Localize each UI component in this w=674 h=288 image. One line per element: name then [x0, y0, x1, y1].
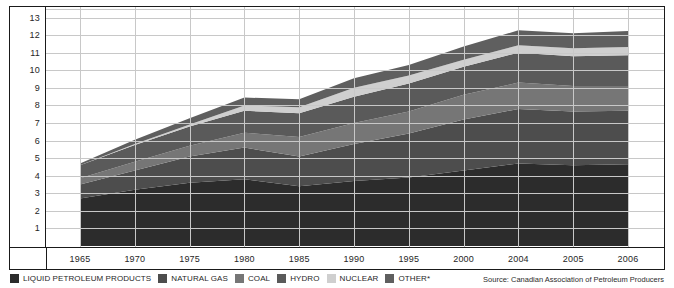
legend-item-label: COAL — [248, 275, 270, 283]
x-axis-divider — [46, 248, 47, 269]
x-axis-tick-label: 2006 — [618, 254, 639, 263]
legend-item-label: OTHER* — [398, 275, 430, 283]
legend-swatch-icon — [277, 274, 286, 283]
x-axis-tick-label: 2005 — [563, 254, 584, 263]
legend-item-label: NATURAL GAS — [171, 275, 228, 283]
plot-wrapper: 12345678910111213 — [10, 7, 664, 247]
legend-item-label: HYDRO — [290, 275, 319, 283]
legend-item-label: NUCLEAR — [340, 275, 379, 283]
x-axis: 1965197019751980198519901995200020042005… — [9, 248, 665, 270]
y-axis-tick-label: 12 — [30, 31, 40, 40]
gridline-horizontal — [46, 123, 664, 124]
legend-swatch-icon — [158, 274, 167, 283]
gridline-horizontal — [46, 9, 664, 10]
legend-item: OTHER* — [385, 274, 430, 283]
legend-swatch-icon — [235, 274, 244, 283]
x-axis-tick-label: 1970 — [124, 254, 145, 263]
gridline-horizontal — [46, 228, 664, 229]
chart-screenshot: 12345678910111213 1965197019751980198519… — [0, 0, 674, 288]
gridline-horizontal — [46, 211, 664, 212]
y-axis-tick-label: 9 — [35, 83, 40, 92]
chart-legend: LIQUID PETROLEUM PRODUCTSNATURAL GASCOAL… — [10, 274, 430, 283]
legend-swatch-icon — [327, 274, 336, 283]
y-axis-tick-label: 4 — [35, 171, 40, 180]
x-axis-tick-label: 2004 — [508, 254, 529, 263]
y-axis-tick-label: 7 — [35, 118, 40, 127]
legend-item: HYDRO — [277, 274, 319, 283]
gridline-vertical — [135, 7, 136, 247]
x-axis-tick-label: 1975 — [179, 254, 200, 263]
y-axis-tick-label: 10 — [30, 66, 40, 75]
x-axis-tick-label: 1980 — [234, 254, 255, 263]
gridline-vertical — [573, 7, 574, 247]
gridline-horizontal — [46, 158, 664, 159]
gridline-horizontal — [46, 18, 664, 19]
plot-area — [46, 7, 664, 247]
gridline-vertical — [80, 7, 81, 247]
gridline-horizontal — [46, 176, 664, 177]
gridline-horizontal — [46, 35, 664, 36]
gridline-vertical — [354, 7, 355, 247]
gridline-vertical — [628, 7, 629, 247]
chart-frame: 12345678910111213 — [9, 6, 665, 248]
legend-item: NUCLEAR — [327, 274, 379, 283]
legend-item: NATURAL GAS — [158, 274, 228, 283]
y-axis-tick-label: 6 — [35, 136, 40, 145]
gridline-vertical — [299, 7, 300, 247]
source-note: Source: Canadian Association of Petroleu… — [483, 276, 664, 284]
gridline-vertical — [409, 7, 410, 247]
legend-swatch-icon — [10, 274, 19, 283]
legend-item: LIQUID PETROLEUM PRODUCTS — [10, 274, 151, 283]
y-axis-tick-label: 3 — [35, 189, 40, 198]
legend-item: COAL — [235, 274, 270, 283]
y-axis: 12345678910111213 — [10, 7, 46, 247]
gridline-horizontal — [46, 70, 664, 71]
y-axis-tick-label: 13 — [30, 13, 40, 22]
x-axis-tick-label: 1990 — [344, 254, 365, 263]
gridline-horizontal — [46, 141, 664, 142]
gridline-horizontal — [46, 193, 664, 194]
y-axis-tick-label: 11 — [30, 48, 40, 57]
y-axis-tick-label: 1 — [35, 224, 40, 233]
gridline-vertical — [244, 7, 245, 247]
y-axis-tick-label: 2 — [35, 206, 40, 215]
gridline-horizontal — [46, 88, 664, 89]
y-axis-tick-label: 5 — [35, 154, 40, 163]
gridline-vertical — [190, 7, 191, 247]
gridline-horizontal — [46, 53, 664, 54]
x-axis-tick-label: 2000 — [453, 254, 474, 263]
legend-item-label: LIQUID PETROLEUM PRODUCTS — [23, 275, 151, 283]
legend-swatch-icon — [385, 274, 394, 283]
gridline-vertical — [518, 7, 519, 247]
y-axis-tick-label: 8 — [35, 101, 40, 110]
gridline-vertical — [464, 7, 465, 247]
gridline-horizontal — [46, 105, 664, 106]
x-axis-tick-label: 1965 — [70, 254, 91, 263]
x-axis-tick-label: 1985 — [289, 254, 310, 263]
x-axis-tick-label: 1995 — [398, 254, 419, 263]
